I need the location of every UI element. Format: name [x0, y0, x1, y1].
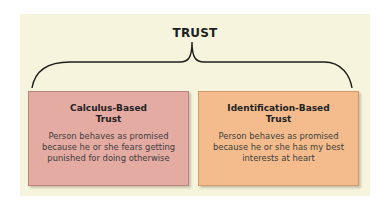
description-line: Person behaves as promised: [33, 131, 184, 142]
identification-based-trust-box: Identification-Based Trust Person behave…: [198, 91, 359, 186]
title-line: Trust: [199, 114, 358, 125]
description-line: Person behaves as promised: [203, 131, 354, 142]
description-line: because he or she fears getting: [33, 142, 184, 153]
calculus-based-trust-description: Person behaves as promised because he or…: [29, 131, 188, 164]
calculus-based-trust-title: Calculus-Based Trust: [29, 103, 188, 125]
description-line: because he or she has my best: [203, 142, 354, 153]
title-line: Trust: [29, 114, 188, 125]
description-line: interests at heart: [203, 153, 354, 164]
identification-based-trust-title: Identification-Based Trust: [199, 103, 358, 125]
calculus-based-trust-box: Calculus-Based Trust Person behaves as p…: [28, 91, 189, 186]
description-line: punished for doing otherwise: [33, 153, 184, 164]
diagram-panel: TRUST Calculus-Based Trust Person behave…: [20, 14, 370, 196]
title-line: Identification-Based: [199, 103, 358, 114]
curly-brace-icon: [20, 14, 370, 94]
title-line: Calculus-Based: [29, 103, 188, 114]
identification-based-trust-description: Person behaves as promised because he or…: [199, 131, 358, 164]
